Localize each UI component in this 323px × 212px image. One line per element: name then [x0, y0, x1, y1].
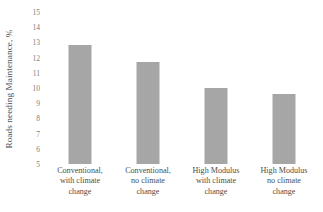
y-axis-tick: 6 — [36, 144, 40, 153]
y-axis-title-text: Roads needing Maintenance, % — [4, 29, 14, 148]
x-axis-category-label: Conventional,no climatechange — [114, 166, 182, 197]
y-axis-tick: 11 — [33, 68, 40, 77]
y-axis-tick: 14 — [32, 23, 40, 32]
x-axis-label-line: change — [46, 187, 114, 197]
bar[interactable] — [69, 45, 92, 164]
x-axis-label-line: Conventional, — [46, 166, 114, 176]
y-axis-tick-labels: 15141312111098765 — [18, 12, 44, 164]
y-axis-tick: 5 — [36, 160, 40, 169]
y-axis-title: Roads needing Maintenance, % — [0, 0, 18, 178]
x-axis-label-line: with climate — [182, 176, 250, 186]
x-axis-label-line: no climate — [250, 176, 318, 186]
bar-slot — [114, 12, 182, 164]
x-axis-category-label: High Modulusno climatechange — [250, 166, 318, 197]
y-axis-tick: 7 — [36, 129, 40, 138]
x-axis-category-label: Conventional,with climatechange — [46, 166, 114, 197]
x-axis-label-line: with climate — [46, 176, 114, 186]
x-axis-label-line: High Modulus — [182, 166, 250, 176]
bar[interactable] — [205, 88, 228, 164]
x-axis-category-labels: Conventional,with climatechangeConventio… — [46, 166, 318, 212]
y-axis-tick: 13 — [32, 38, 40, 47]
x-axis-label-line: no climate — [114, 176, 182, 186]
bar-slot — [182, 12, 250, 164]
y-axis-tick: 15 — [32, 8, 40, 17]
bar[interactable] — [137, 62, 160, 164]
bar-slot — [46, 12, 114, 164]
x-axis-label-line: Conventional, — [114, 166, 182, 176]
y-axis-tick: 10 — [32, 84, 40, 93]
y-axis-tick: 8 — [36, 114, 40, 123]
x-axis-category-label: High Moduluswith climatechange — [182, 166, 250, 197]
x-axis-label-line: change — [114, 187, 182, 197]
plot-area — [46, 12, 318, 164]
y-axis-tick: 9 — [36, 99, 40, 108]
bar[interactable] — [273, 94, 296, 164]
x-axis-label-line: High Modulus — [250, 166, 318, 176]
bar-slot — [250, 12, 318, 164]
y-axis-tick: 12 — [32, 53, 40, 62]
bar-chart: Roads needing Maintenance, % 15141312111… — [0, 0, 323, 212]
x-axis-label-line: change — [250, 187, 318, 197]
x-axis-label-line: change — [182, 187, 250, 197]
